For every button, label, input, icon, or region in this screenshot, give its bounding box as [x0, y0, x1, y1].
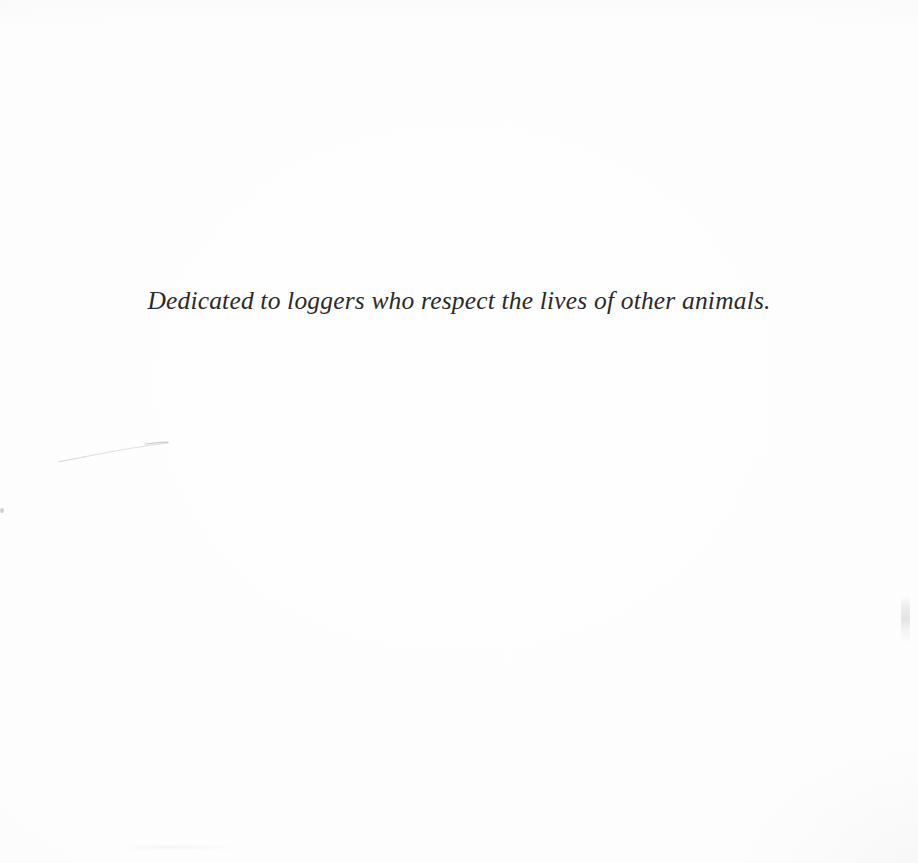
right-edge-smudge-icon	[901, 596, 910, 644]
bottom-right-edge-shading	[738, 743, 918, 863]
paper-texture-overlay	[0, 0, 918, 863]
bottom-edge-streak-icon	[120, 846, 240, 849]
top-edge-shading	[0, 0, 918, 26]
dedication-text: Dedicated to loggers who respect the liv…	[0, 286, 918, 315]
faint-curved-scan-line-icon	[50, 430, 180, 470]
left-edge-speck-icon	[0, 508, 4, 513]
scanned-dedication-page: Dedicated to loggers who respect the liv…	[0, 0, 918, 863]
